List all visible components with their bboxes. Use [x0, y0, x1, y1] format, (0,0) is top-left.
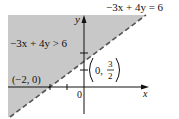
origin-label: 0 [77, 89, 82, 100]
inequality-label: −3x + 4y > 6 [10, 37, 68, 49]
point-b-prefix: 0, [95, 65, 103, 76]
point-b-denominator: 2 [108, 71, 113, 81]
equation-label: −3x + 4y = 6 [106, 1, 164, 13]
x-axis-label: x [142, 88, 148, 99]
y-axis-label: y [74, 13, 80, 25]
point-b-numerator: 3 [108, 59, 113, 69]
point-label-neg2-0: (−2, 0) [12, 74, 41, 86]
graph-canvas: −3x + 4y = 6 −3x + 4y > 6 y x 0 (−2, 0) … [0, 0, 179, 119]
point-label-0-3-2: 0, 3 2 [90, 58, 120, 82]
inequality-graph: −3x + 4y = 6 −3x + 4y > 6 y x 0 (−2, 0) … [0, 0, 179, 119]
